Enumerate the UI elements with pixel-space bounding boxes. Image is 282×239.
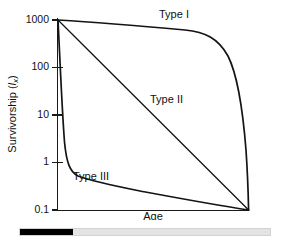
y-axis-title: Survivorship (lx) <box>6 75 20 152</box>
scroll-progress-bar[interactable] <box>19 228 271 236</box>
survivorship-curve-figure: 1000 100 10 1 0.1 Survivorship (lx) Type… <box>0 0 282 239</box>
y-tick-label-100: 100 <box>31 60 49 72</box>
x-axis-title: Age <box>143 210 163 220</box>
series-label-type-iii: Type III <box>73 170 109 182</box>
y-tick-label-10: 10 <box>37 108 49 120</box>
y-axis-title-prefix: Survivorship ( <box>6 85 18 153</box>
svg-text:Survivorship (lx): Survivorship (lx) <box>6 75 20 152</box>
series-label-type-ii: Type II <box>150 93 183 105</box>
scroll-progress-fill <box>20 229 73 235</box>
y-tick-label-1000: 1000 <box>26 13 50 25</box>
series-label-type-i: Type I <box>159 8 189 20</box>
survivorship-chart: 1000 100 10 1 0.1 Survivorship (lx) Type… <box>0 0 282 220</box>
y-tick-label-0.1: 0.1 <box>34 203 49 215</box>
y-axis-title-suffix: ) <box>6 75 18 79</box>
y-tick-label-1: 1 <box>43 155 49 167</box>
